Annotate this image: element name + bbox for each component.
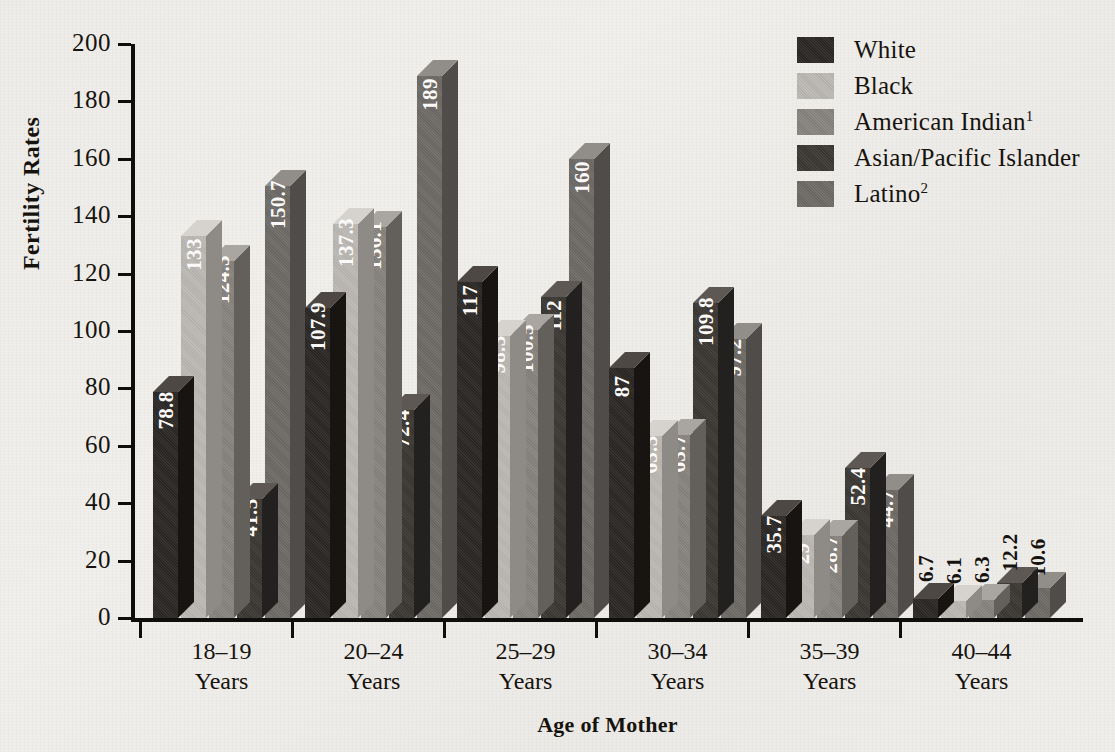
bar-value-label: 6.3 [969, 556, 994, 583]
bar-value-label: 107.9 [305, 302, 330, 351]
legend-label: Asian/Pacific Islander [854, 145, 1080, 171]
bar-value-label: 78.8 [153, 391, 178, 429]
bar-value-label: 87 [609, 376, 634, 398]
legend-item[interactable]: Black [797, 69, 1080, 103]
bar[interactable]: 6.7 [913, 599, 938, 618]
bar-side-face [870, 452, 886, 618]
bar-side-face [178, 376, 194, 618]
y-axis-tick-label: 60 [85, 434, 111, 456]
category-label-unit: Years [142, 666, 302, 696]
legend-label: White [854, 37, 916, 63]
category-label-unit: Years [750, 666, 910, 696]
legend-swatch [797, 73, 834, 99]
x-axis-category-label: 20–24Years [294, 636, 454, 696]
bar-side-face [786, 500, 802, 618]
category-label-unit: Years [446, 666, 606, 696]
legend-label: American Indian1 [854, 109, 1033, 135]
category-label-range: 30–34 [598, 636, 758, 666]
y-axis-tick: 160 [118, 158, 131, 161]
bar-side-face [358, 208, 374, 618]
legend-item[interactable]: Latino2 [797, 177, 1080, 211]
legend-label: Latino2 [854, 181, 928, 207]
y-axis-tick: 80 [118, 387, 131, 390]
bar[interactable]: 87 [609, 368, 634, 618]
x-axis-category-label: 25–29Years [446, 636, 606, 696]
y-axis-tick-label: 80 [85, 376, 111, 398]
bar-side-face [842, 520, 858, 618]
bar-side-face [898, 474, 914, 618]
bar-value-label: 6.7 [913, 555, 938, 582]
x-axis-category-label: 35–39Years [750, 636, 910, 696]
category-label-unit: Years [294, 666, 454, 696]
bar-side-face [662, 420, 678, 618]
bar-side-face [746, 323, 762, 618]
bar-side-face [718, 287, 734, 618]
bar-side-face [594, 143, 610, 618]
bar-value-label: 52.4 [845, 467, 870, 505]
bar-side-face [538, 314, 554, 618]
x-axis-category-label: 40–44Years [902, 636, 1062, 696]
bar-front-face [457, 282, 482, 618]
legend-label: Black [854, 73, 913, 99]
bar-side-face [262, 483, 278, 618]
legend-swatch [797, 37, 834, 63]
y-axis-tick-label: 40 [85, 491, 111, 513]
y-axis-tick: 100 [118, 330, 131, 333]
bar-value-label: 150.7 [265, 180, 290, 229]
y-axis-title: Fertility Rates [18, 117, 45, 270]
bar-value-label: 12.2 [997, 534, 1022, 572]
bar-value-label: 117 [457, 285, 482, 316]
bar-side-face [482, 266, 498, 618]
legend-item[interactable]: Asian/Pacific Islander [797, 141, 1080, 175]
x-axis-category-label: 30–34Years [598, 636, 758, 696]
x-axis-line [131, 618, 1083, 622]
y-axis-tick: 0 [118, 617, 131, 620]
bar[interactable]: 117 [457, 282, 482, 618]
legend-item[interactable]: White [797, 33, 1080, 67]
category-label-unit: Years [902, 666, 1062, 696]
bar[interactable]: 78.8 [153, 392, 178, 618]
legend-footnote-marker: 1 [1026, 108, 1034, 124]
bar-side-face [510, 320, 526, 618]
chart-legend: WhiteBlackAmerican Indian1Asian/Pacific … [797, 33, 1080, 213]
bar-value-label: 6.1 [941, 556, 966, 583]
category-label-range: 20–24 [294, 636, 454, 666]
bar-value-label: 160 [569, 161, 594, 193]
bar-side-face [206, 220, 222, 618]
bar[interactable]: 35.7 [761, 516, 786, 618]
bar-side-face [634, 352, 650, 618]
x-axis-title-text: Age of Mother [537, 712, 678, 737]
bar-front-face [305, 308, 330, 618]
legend-item[interactable]: American Indian1 [797, 105, 1080, 139]
bar-front-face [913, 599, 938, 618]
bar-side-face [690, 419, 706, 618]
y-axis-tick: 140 [118, 215, 131, 218]
category-label-range: 18–19 [142, 636, 302, 666]
bar-side-face [414, 394, 430, 618]
bar-side-face [442, 60, 458, 618]
bar-value-label: 133 [181, 239, 206, 271]
bar-front-face [609, 368, 634, 618]
category-label-range: 40–44 [902, 636, 1062, 666]
bar-value-label: 137.3 [333, 218, 358, 267]
y-axis-tick-label: 200 [72, 32, 111, 54]
y-axis-tick-label: 120 [72, 262, 111, 284]
category-label-range: 25–29 [446, 636, 606, 666]
bar-side-face [290, 170, 306, 619]
y-axis-tick: 120 [118, 273, 131, 276]
legend-swatch [797, 145, 834, 171]
y-axis-tick-label: 0 [98, 606, 111, 628]
bar-value-label: 35.7 [761, 515, 786, 553]
bar[interactable]: 107.9 [305, 308, 330, 618]
y-axis-tick: 200 [118, 43, 131, 46]
y-axis-tick: 60 [118, 445, 131, 448]
x-axis-title: Age of Mother [0, 712, 1115, 738]
bar-value-label: 109.8 [693, 297, 718, 346]
legend-footnote-marker: 2 [920, 180, 928, 196]
bar-side-face [386, 211, 402, 618]
y-axis-line [131, 44, 135, 621]
chart-page: Fertility Rates 200180160140120100806040… [0, 0, 1115, 752]
y-axis-tick: 20 [118, 560, 131, 563]
category-label-unit: Years [598, 666, 758, 696]
y-axis-tick: 180 [118, 100, 131, 103]
